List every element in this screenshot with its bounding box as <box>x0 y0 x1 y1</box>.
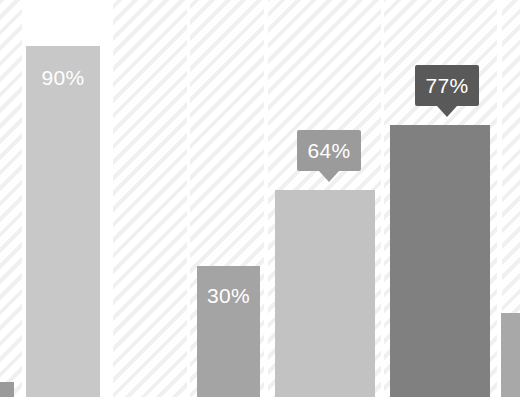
callout-bar-4[interactable]: 77% <box>415 65 479 106</box>
bar-1[interactable]: 90% <box>26 46 100 397</box>
bar-chart: 90% 30% 64% 77% <box>0 0 520 397</box>
bar-2[interactable]: 30% <box>197 266 260 397</box>
bar-1-value-label: 90% <box>26 67 100 88</box>
bar-2-value-label: 30% <box>197 285 260 306</box>
bar-3[interactable] <box>275 190 375 397</box>
hatch-band <box>0 0 22 397</box>
bar-4[interactable] <box>390 125 490 397</box>
callout-bar-3-label: 64% <box>308 140 351 161</box>
callout-pointer-icon <box>437 106 457 117</box>
callout-bar-3[interactable]: 64% <box>297 130 361 171</box>
callout-bar-4-label: 77% <box>426 75 469 96</box>
bar-partial-right[interactable] <box>501 313 520 397</box>
callout-pointer-icon <box>319 171 339 182</box>
hatch-band <box>113 0 187 397</box>
bar-partial-left[interactable] <box>0 382 14 397</box>
